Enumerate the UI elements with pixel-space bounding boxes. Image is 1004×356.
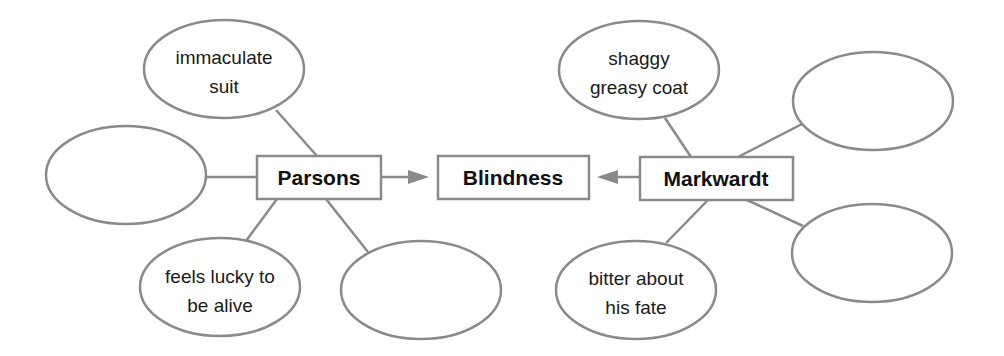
parsons-label: Parsons — [278, 166, 361, 189]
markwardt-box: Markwardt — [640, 157, 793, 200]
detail-text-line: be alive — [187, 295, 253, 316]
arrow-parsons-to-blindness — [381, 170, 429, 184]
connector-markwardt-empty-bottom-right — [747, 200, 803, 226]
blindness-label: Blindness — [463, 166, 563, 189]
detail-text-line: greasy coat — [590, 77, 689, 98]
parsons-detail-4-blank[interactable] — [341, 241, 501, 339]
markwardt-label: Markwardt — [663, 167, 768, 190]
connector-markwardt-shaggy-coat — [665, 118, 691, 157]
parsons-detail-1: immaculate suit — [144, 20, 304, 118]
connector-parsons-feels-lucky — [246, 199, 277, 241]
detail-text-line: shaggy — [608, 48, 670, 69]
detail-text-line: bitter about — [588, 268, 684, 289]
markwardt-detail-2-blank[interactable] — [793, 52, 953, 150]
markwardt-detail-1: shaggy greasy coat — [559, 21, 719, 119]
connector-markwardt-empty-top-right — [738, 124, 802, 157]
markwardt-detail-4: bitter about his fate — [556, 241, 716, 339]
connector-parsons-immaculate-suit — [276, 110, 317, 156]
arrowhead-left-icon — [597, 170, 618, 184]
markwardt-detail-3-blank[interactable] — [792, 204, 952, 302]
detail-text-line: immaculate — [175, 47, 272, 68]
parsons-detail-3: feels lucky to be alive — [140, 238, 300, 336]
blindness-box: Blindness — [438, 156, 589, 199]
character-web-diagram: immaculate suit feels lucky to be alive … — [0, 0, 1004, 356]
parsons-box: Parsons — [257, 156, 381, 199]
detail-text-line: suit — [209, 76, 239, 97]
arrowhead-right-icon — [408, 170, 429, 184]
connector-parsons-empty-bottom — [326, 199, 368, 252]
arrow-markwardt-to-blindness — [597, 170, 640, 184]
detail-text-line: his fate — [605, 297, 666, 318]
parsons-detail-2-blank[interactable] — [46, 126, 206, 224]
detail-text-line: feels lucky to — [165, 266, 275, 287]
connector-markwardt-bitter — [666, 200, 708, 243]
